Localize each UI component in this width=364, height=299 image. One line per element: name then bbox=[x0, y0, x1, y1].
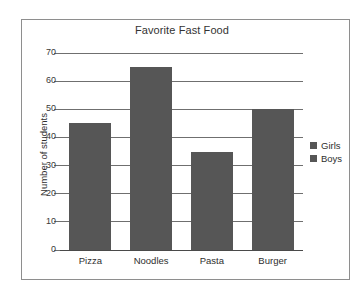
chart-legend: GirlsBoys bbox=[310, 140, 356, 166]
legend-label: Girls bbox=[321, 141, 341, 151]
legend-item: Boys bbox=[310, 153, 356, 164]
y-axis-tick-label: 60 bbox=[30, 76, 56, 85]
y-axis-tick-labels: 010203040506070 bbox=[26, 53, 56, 250]
x-axis-tick-label: Burger bbox=[242, 255, 303, 266]
legend-swatch-icon bbox=[310, 142, 317, 149]
x-axis-tick-labels: PizzaNoodlesPastaBurger bbox=[60, 0, 303, 299]
y-axis-tick-label: 20 bbox=[30, 189, 56, 198]
y-axis-tick-label: 70 bbox=[30, 48, 56, 57]
y-axis-tick-label: 40 bbox=[30, 132, 56, 141]
legend-label: Boys bbox=[321, 154, 342, 164]
legend-item: Girls bbox=[310, 140, 356, 151]
y-axis-tick-label: 50 bbox=[30, 104, 56, 113]
x-axis-tick-label: Pasta bbox=[182, 255, 243, 266]
x-axis-tick-label: Pizza bbox=[60, 255, 121, 266]
x-axis-tick-label: Noodles bbox=[121, 255, 182, 266]
y-axis-tick-label: 30 bbox=[30, 161, 56, 170]
y-axis-tick-label: 0 bbox=[30, 245, 56, 254]
chart-figure: Favorite Fast Food Number of students 01… bbox=[0, 0, 364, 299]
y-axis-tick-label: 10 bbox=[30, 217, 56, 226]
legend-swatch-icon bbox=[310, 155, 317, 162]
